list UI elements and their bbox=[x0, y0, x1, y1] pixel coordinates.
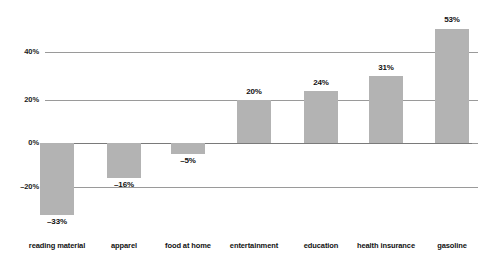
bar-health-insurance bbox=[369, 76, 403, 143]
ytick-label-20: 20% bbox=[6, 95, 39, 104]
bar-education bbox=[304, 91, 338, 143]
bar-food-at-home bbox=[171, 143, 205, 154]
bar-reading-material bbox=[40, 143, 74, 215]
bar-apparel bbox=[107, 143, 141, 178]
bar-gasoline bbox=[435, 29, 469, 143]
plot-area: 40% 20% 0% –20% –33% –16% –5% 20% 24% 31… bbox=[0, 0, 484, 265]
gridline-40 bbox=[45, 52, 478, 53]
ytick-label-0: 0% bbox=[6, 138, 39, 147]
value-label-entertainment: 20% bbox=[229, 87, 279, 96]
tick-mark-40 bbox=[472, 52, 478, 53]
tick-mark-20 bbox=[472, 100, 478, 101]
ytick-label-40: 40% bbox=[6, 47, 39, 56]
tick-mark-neg20 bbox=[472, 187, 478, 188]
value-label-education: 24% bbox=[296, 78, 346, 87]
bar-chart: 40% 20% 0% –20% –33% –16% –5% 20% 24% 31… bbox=[0, 0, 484, 265]
tick-mark-0 bbox=[472, 143, 478, 144]
ytick-label-neg20: –20% bbox=[6, 182, 39, 191]
value-label-food-at-home: –5% bbox=[163, 156, 213, 165]
value-label-reading-material: –33% bbox=[32, 217, 82, 226]
value-label-gasoline: 53% bbox=[427, 15, 477, 24]
category-label-gasoline: gasoline bbox=[412, 241, 484, 250]
value-label-apparel: –16% bbox=[99, 180, 149, 189]
bar-entertainment bbox=[237, 100, 271, 143]
value-label-health-insurance: 31% bbox=[361, 63, 411, 72]
